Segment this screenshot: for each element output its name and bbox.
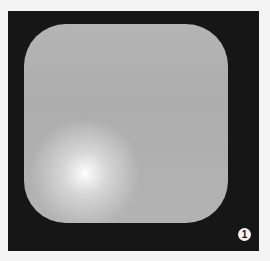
step-number-badge: 1	[238, 228, 251, 241]
rounded-square-shape	[24, 24, 228, 223]
figure-panel: 1	[8, 11, 259, 251]
